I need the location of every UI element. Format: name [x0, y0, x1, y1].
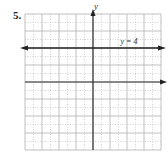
line-right-arrow-icon [158, 46, 166, 51]
x-axis-arrow-icon [160, 80, 167, 85]
y-axis-label: y [93, 1, 98, 11]
coordinate-plane: x y y = 4 [0, 0, 167, 156]
line-left-arrow-icon [20, 46, 28, 51]
line-label: y = 4 [120, 37, 138, 46]
